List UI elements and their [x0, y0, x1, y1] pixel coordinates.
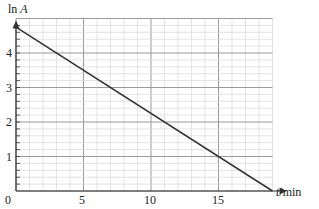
x-tick-10: 10 — [144, 193, 156, 208]
y-axis-label: ln A — [8, 2, 28, 17]
y-tick-3: 3 — [6, 81, 12, 96]
y-tick-2: 2 — [6, 115, 12, 130]
x-tick-15: 15 — [212, 193, 224, 208]
y-tick-1: 1 — [6, 150, 12, 165]
x-tick-5: 5 — [79, 193, 85, 208]
x-axis-label: t/min — [276, 185, 301, 200]
origin-label: 0 — [5, 193, 11, 208]
chart-plot — [0, 0, 319, 209]
y-tick-4: 4 — [6, 46, 12, 61]
